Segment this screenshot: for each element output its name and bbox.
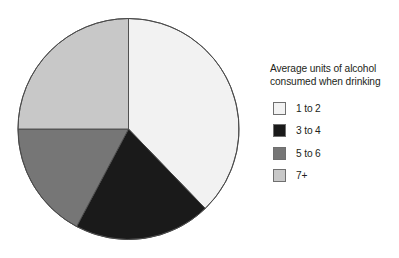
legend-item-label: 5 to 6 xyxy=(296,148,321,159)
legend-item-label: 3 to 4 xyxy=(296,125,321,136)
pie-plot-area xyxy=(0,0,258,258)
pie-chart-figure: Average units of alcohol consumed when d… xyxy=(0,0,399,258)
legend-item[interactable]: 5 to 6 xyxy=(270,143,399,163)
legend-item-label: 1 to 2 xyxy=(296,103,321,114)
legend-swatch-icon xyxy=(273,124,286,137)
legend-title: Average units of alcohol consumed when d… xyxy=(270,62,399,88)
pie-svg xyxy=(0,0,258,258)
legend-swatch-icon xyxy=(273,102,286,115)
legend-item[interactable]: 1 to 2 xyxy=(270,98,399,118)
chart-legend: Average units of alcohol consumed when d… xyxy=(270,62,399,188)
legend-swatch-icon xyxy=(273,169,286,182)
legend-swatch-icon xyxy=(273,147,286,160)
legend-item-label: 7+ xyxy=(296,170,307,181)
legend-item-list: 1 to 23 to 45 to 67+ xyxy=(270,98,399,186)
pie-slice-7plus[interactable] xyxy=(18,19,129,130)
legend-item[interactable]: 3 to 4 xyxy=(270,121,399,141)
legend-item[interactable]: 7+ xyxy=(270,166,399,186)
pie-slice-group xyxy=(18,19,239,240)
